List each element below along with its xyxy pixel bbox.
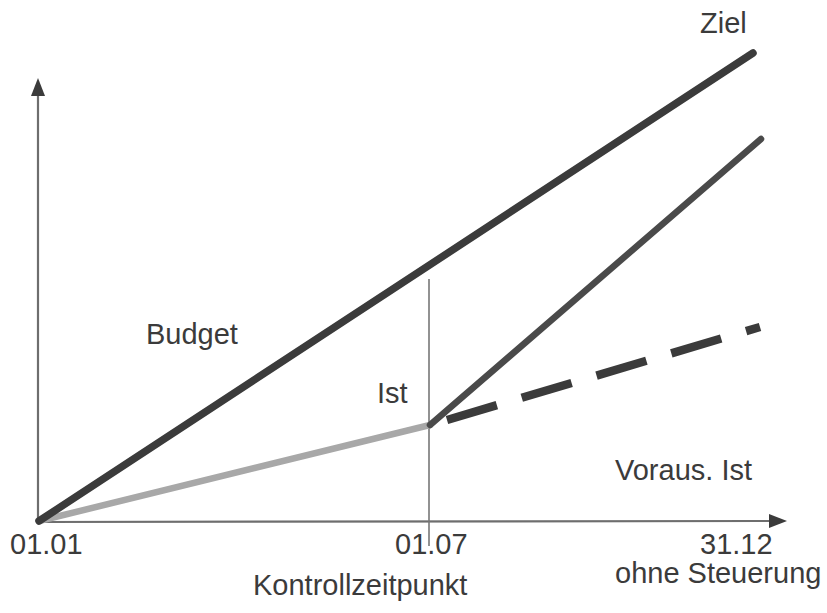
x-tick-label-mid: 01.07 (395, 527, 468, 561)
series-label-budget: Budget (146, 317, 238, 351)
series-label-voraus-ist-line1: Voraus. Ist (615, 453, 821, 487)
chart-container: Ziel Budget Ist Voraus. Ist ohne Steueru… (0, 0, 827, 613)
x-tick-label-end: 31.12 (700, 527, 773, 561)
series-label-voraus-ist-line2: ohne Steuerung (615, 556, 821, 590)
series-label-voraus-ist: Voraus. Ist ohne Steuerung (615, 385, 821, 613)
y-axis-arrow-icon (31, 78, 45, 96)
series-line-ziel-korrektur (430, 139, 761, 425)
x-tick-label-start: 01.01 (10, 527, 83, 561)
series-line-ist (39, 425, 430, 521)
x-axis-title: Kontrollzeitpunkt (253, 568, 467, 602)
series-label-ziel: Ziel (700, 6, 747, 40)
series-label-ist: Ist (377, 376, 408, 410)
